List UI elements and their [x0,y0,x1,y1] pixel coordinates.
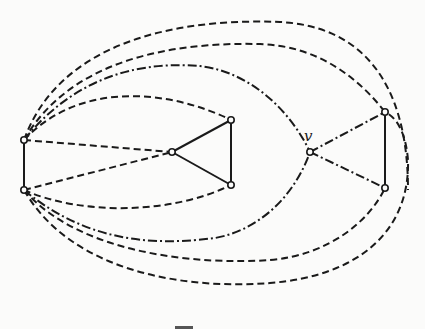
edge-a-v [24,65,310,152]
edge-v-g [310,152,385,188]
edge-c-d [172,120,231,152]
node-d [228,117,234,123]
edge-v-f [310,112,385,152]
edge-a-c [24,140,172,152]
edge-b-c [24,152,172,190]
edge-b-e [24,185,231,208]
node-v-label: v [304,127,313,145]
node-f [382,109,388,115]
edge-a-g [24,22,408,190]
edge-a-d [24,96,231,140]
edge-c-e [172,152,231,185]
graph-diagram: v [0,0,425,329]
node-e [228,182,234,188]
node-c [169,149,175,155]
node-v [307,149,313,155]
edge-b-f [24,112,408,284]
node-b [21,187,27,193]
node-a [21,137,27,143]
node-g [382,185,388,191]
edge-b-v [24,152,310,241]
